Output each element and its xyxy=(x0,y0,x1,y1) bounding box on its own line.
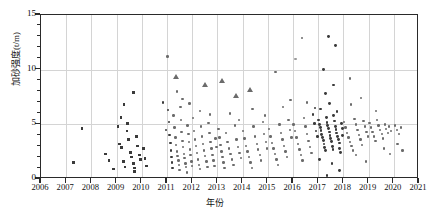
y-axis-minor-tick xyxy=(37,134,40,135)
y-axis-minor-tick xyxy=(37,167,40,168)
data-point xyxy=(203,149,205,151)
data-point xyxy=(166,55,169,58)
data-point xyxy=(318,158,321,161)
data-point xyxy=(362,120,364,122)
data-point xyxy=(347,136,349,138)
data-point xyxy=(353,118,355,120)
data-point xyxy=(289,129,291,131)
data-point xyxy=(198,164,200,166)
data-point xyxy=(217,128,219,130)
data-point xyxy=(123,103,126,106)
data-point xyxy=(289,99,291,101)
data-point xyxy=(199,168,201,170)
data-point xyxy=(126,122,129,125)
data-point xyxy=(387,132,389,134)
x-axis-tick-label: 2021 xyxy=(398,182,429,192)
data-point xyxy=(245,145,247,147)
vertical-gridline xyxy=(243,15,244,177)
data-point xyxy=(180,131,182,133)
data-point xyxy=(374,140,376,142)
data-point xyxy=(120,146,123,149)
data-point xyxy=(384,123,386,125)
y-axis-minor-tick xyxy=(37,101,40,102)
data-point xyxy=(237,146,239,148)
data-point xyxy=(229,153,231,155)
data-point xyxy=(205,160,207,162)
vertical-gridline xyxy=(217,15,218,177)
data-point xyxy=(352,149,354,151)
data-point xyxy=(135,135,138,138)
data-point xyxy=(225,132,227,134)
data-point xyxy=(183,153,185,155)
data-point xyxy=(371,131,373,133)
data-point xyxy=(355,123,357,125)
data-point xyxy=(388,125,390,127)
data-point xyxy=(214,137,216,139)
data-point xyxy=(272,147,274,149)
data-point xyxy=(297,143,299,145)
data-point xyxy=(120,116,123,119)
data-point xyxy=(306,133,308,135)
data-point xyxy=(307,140,309,142)
data-point xyxy=(108,159,111,162)
data-point xyxy=(188,102,190,104)
vertical-gridline xyxy=(91,15,92,177)
data-point xyxy=(175,144,177,146)
data-point xyxy=(200,125,202,127)
data-point xyxy=(178,164,180,166)
vertical-gridline xyxy=(318,15,319,177)
data-point xyxy=(367,135,369,137)
data-point xyxy=(127,138,130,141)
scatter-chart-figure: 加砂强度(t/m) 051015200620072008200920102011… xyxy=(0,0,429,216)
data-point xyxy=(197,158,199,160)
y-axis-minor-tick xyxy=(37,46,40,47)
data-point xyxy=(142,147,145,150)
data-point xyxy=(212,159,214,161)
data-point xyxy=(338,169,341,172)
data-point xyxy=(328,131,331,134)
data-point xyxy=(310,152,312,154)
data-point xyxy=(218,136,220,138)
data-point xyxy=(176,150,178,152)
data-point xyxy=(172,114,174,116)
data-point xyxy=(280,132,282,134)
data-point xyxy=(398,133,400,135)
vertical-gridline xyxy=(293,15,294,177)
data-point xyxy=(355,154,357,156)
data-point xyxy=(72,161,75,164)
data-point xyxy=(264,114,266,116)
data-point xyxy=(192,117,194,119)
data-point xyxy=(269,135,271,137)
data-point xyxy=(130,156,133,159)
y-axis-minor-tick xyxy=(37,35,40,36)
data-point xyxy=(328,102,331,105)
data-point xyxy=(327,35,330,38)
data-point xyxy=(196,152,198,154)
data-point xyxy=(394,124,396,126)
data-point xyxy=(283,145,285,147)
data-point xyxy=(346,132,348,134)
data-point xyxy=(238,119,240,121)
data-point xyxy=(112,168,115,171)
data-point xyxy=(181,98,183,100)
data-point xyxy=(282,106,284,108)
data-point xyxy=(201,135,203,137)
data-point xyxy=(252,125,254,127)
data-point xyxy=(185,166,187,168)
data-point xyxy=(193,130,195,132)
data-point xyxy=(210,147,212,149)
data-point xyxy=(333,120,336,123)
vertical-gridline xyxy=(268,15,269,177)
data-point xyxy=(332,84,335,87)
data-point xyxy=(376,119,378,121)
data-point xyxy=(364,125,366,127)
data-point xyxy=(232,164,234,166)
data-point xyxy=(334,44,337,47)
data-point xyxy=(234,124,236,126)
data-point xyxy=(126,130,129,133)
data-point xyxy=(144,157,147,160)
data-point xyxy=(168,134,170,136)
data-point xyxy=(320,129,323,132)
data-point xyxy=(381,133,383,135)
data-point xyxy=(189,154,191,156)
